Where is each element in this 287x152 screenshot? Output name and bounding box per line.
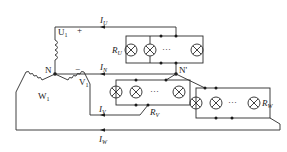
label-iw: IW [98,134,108,145]
circuit-diagram: U1 + − N V1 W1 N' IU IN IV IW RU RV RW ·… [0,0,287,152]
label-rv: RV [149,107,161,118]
label-in: IN [99,62,108,73]
label-iv: IV [98,104,107,115]
label-iu: IU [99,15,108,26]
line-w [16,118,280,132]
lamp-icon [173,86,185,98]
lamp-icon [144,44,156,56]
label-minus: − [75,64,80,74]
ellipsis-rw: ··· [228,97,237,107]
label-n-prime: N' [179,65,187,75]
label-ru: RU [111,45,123,56]
line-u [55,25,176,36]
lamp-icon [210,97,222,109]
ellipsis-rv: ··· [150,86,159,96]
ellipsis-ru: ··· [162,44,171,54]
label-rw: RW [261,98,274,109]
label-plus: + [77,25,82,35]
lamp-icon [248,97,260,109]
label-u1: U1 [58,27,68,38]
lamp-icon [191,44,203,56]
label-n: N [45,65,52,75]
lamp-icon [125,44,137,56]
load-bank-ru [125,35,203,75]
label-w1: W1 [38,91,50,102]
lamp-icon [130,86,142,98]
